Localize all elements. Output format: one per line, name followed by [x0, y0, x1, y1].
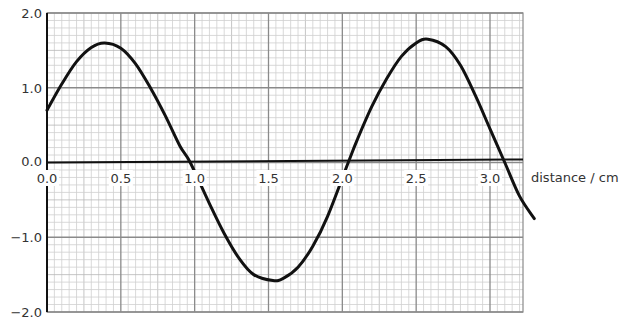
x-tick-label: 2.0 — [332, 171, 353, 186]
y-tick-labels: 2.01.00.0−1.0−2.0 — [10, 6, 42, 320]
x-axis-title: distance / cm — [531, 170, 619, 185]
x-tick-labels: 0.00.51.01.52.02.53.0 — [35, 170, 502, 186]
chart: 0.00.51.01.52.02.53.0 2.01.00.0−1.0−2.0 … — [0, 0, 624, 331]
x-tick-label: 2.5 — [406, 171, 427, 186]
y-tick-label: 0.0 — [21, 154, 42, 169]
x-tick-label: 0.0 — [37, 171, 58, 186]
y-tick-label: −2.0 — [10, 305, 42, 320]
y-tick-label: −1.0 — [10, 230, 42, 245]
y-tick-label: 1.0 — [21, 81, 42, 96]
x-tick-label: 3.0 — [480, 171, 501, 186]
x-tick-label: 0.5 — [110, 171, 131, 186]
y-tick-label: 2.0 — [21, 6, 42, 21]
x-tick-label: 1.5 — [258, 171, 279, 186]
x-tick-label: 1.0 — [184, 171, 205, 186]
